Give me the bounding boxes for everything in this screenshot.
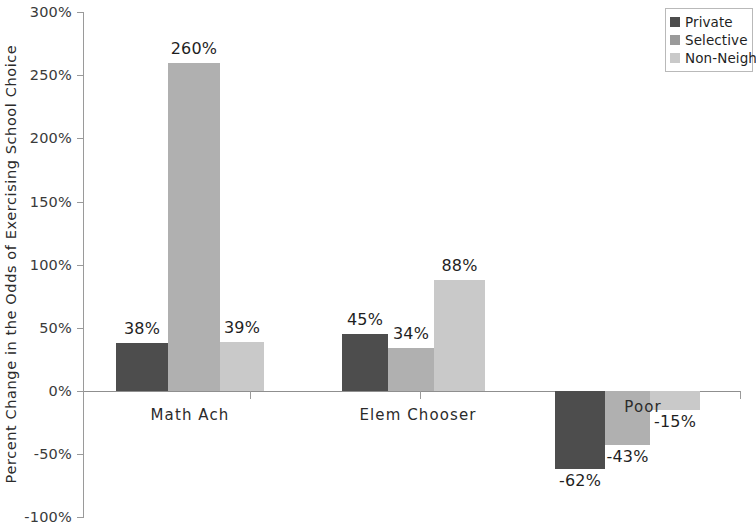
legend-item-label: Selective [685,32,748,48]
y-tick-label: 200% [0,130,72,146]
bar-elem-chooser-private [342,334,388,391]
bar-elem-chooser-selective [388,348,434,391]
legend-swatch-icon [670,17,680,27]
y-tick-mark [77,12,84,13]
bar-poor-private [555,391,605,469]
x-axis-end-tick [740,391,741,399]
y-tick-mark [77,202,84,203]
bar-value-label: 88% [441,256,477,275]
legend-item: Non-Neigh [670,49,749,67]
legend-swatch-icon [670,53,680,63]
chart-legend: Private Selective Non-Neigh [665,8,753,72]
category-label: Elem Chooser [360,406,477,424]
x-axis-group-separator [420,391,421,399]
bar-value-label: 45% [347,310,383,329]
y-tick-mark [77,391,84,392]
x-axis-group-separator [250,391,251,399]
legend-item-label: Private [685,14,733,30]
y-tick-label: 150% [0,194,72,210]
y-tick-label: 100% [0,257,72,273]
y-tick-mark [77,75,84,76]
legend-item-label: Non-Neigh [685,50,756,66]
bar-value-label: 39% [224,318,260,337]
legend-item: Selective [670,31,749,49]
category-label: Math Ach [151,406,230,424]
bar-value-label: 38% [124,319,160,338]
legend-item: Private [670,13,749,31]
bar-value-label: -62% [559,471,601,490]
y-tick-mark [77,517,84,518]
bar-elem-chooser-non-neigh [434,280,485,391]
y-tick-mark [77,328,84,329]
bar-value-label: -43% [606,447,648,466]
bar-chart: Percent Change in the Odds of Exercising… [0,0,756,528]
y-tick-mark [77,265,84,266]
bar-math-ach-selective [168,63,220,391]
y-tick-label: -100% [0,509,72,525]
legend-swatch-icon [670,35,680,45]
y-tick-label: 250% [0,67,72,83]
bar-math-ach-non-neigh [220,342,264,391]
y-tick-label: 50% [0,320,72,336]
category-label: Poor [624,398,661,416]
y-tick-label: 300% [0,4,72,20]
y-tick-mark [77,138,84,139]
y-tick-label: -50% [0,446,72,462]
y-tick-label: 0% [0,383,72,399]
bar-value-label: 260% [171,39,218,58]
bar-math-ach-private [116,343,168,391]
y-tick-mark [77,454,84,455]
bar-value-label: 34% [393,324,429,343]
